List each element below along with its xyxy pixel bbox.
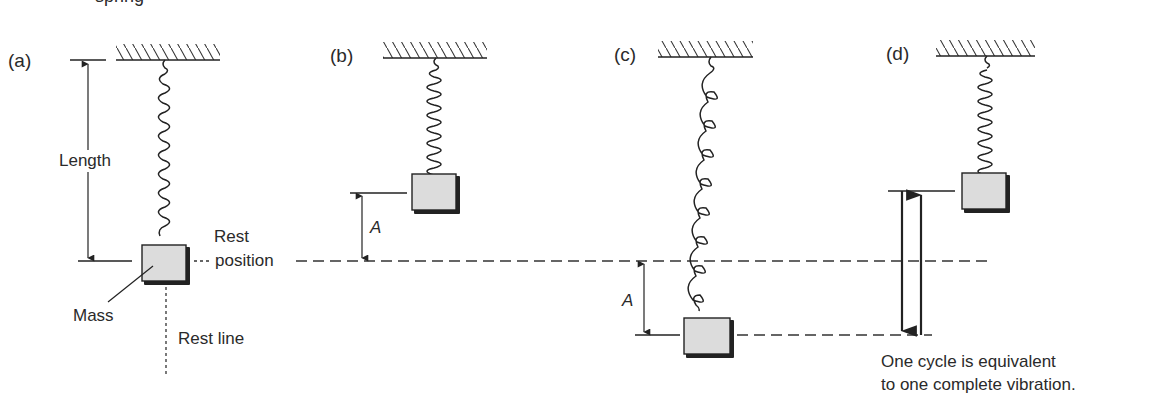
mass-d <box>962 173 1010 213</box>
mass-c <box>684 318 734 358</box>
length-label: Length <box>59 151 111 170</box>
panel-label-c: (c) <box>614 44 636 65</box>
ceiling-d <box>936 40 1035 56</box>
mass-label: Mass <box>73 306 114 325</box>
spring-vibration-diagram: spring (a) Length Rest position Mass Res… <box>0 0 1172 417</box>
panel-label-a: (a) <box>8 50 31 71</box>
rest-label: Rest <box>214 227 249 246</box>
caption-line-1: One cycle is equivalent <box>881 352 1056 371</box>
panel-label-d: (d) <box>886 43 909 64</box>
panel-d: (d) One cycle is equivalent to one compl… <box>881 40 1076 394</box>
panel-c: (c) A <box>614 41 932 358</box>
mass-a <box>142 245 190 285</box>
spring-b <box>427 58 441 189</box>
spring-d <box>978 56 992 189</box>
panel-label-b: (b) <box>330 45 353 66</box>
amplitude-label-c: A <box>621 291 633 310</box>
mass-b <box>412 174 460 214</box>
rest-line-label: Rest line <box>178 329 244 348</box>
ceiling-b <box>383 42 487 58</box>
figure-title-fragment: spring <box>95 0 144 6</box>
position-label: position <box>215 251 274 270</box>
panel-a: (a) Length Rest position Mass Rest line <box>8 44 274 376</box>
panel-b: (b) A <box>330 42 487 258</box>
spring-c <box>688 57 717 311</box>
spring-a <box>158 60 169 236</box>
caption-line-2: to one complete vibration. <box>881 375 1076 394</box>
ceiling-c <box>658 41 753 57</box>
ceiling-a <box>116 44 220 60</box>
amplitude-label-b: A <box>369 218 381 237</box>
